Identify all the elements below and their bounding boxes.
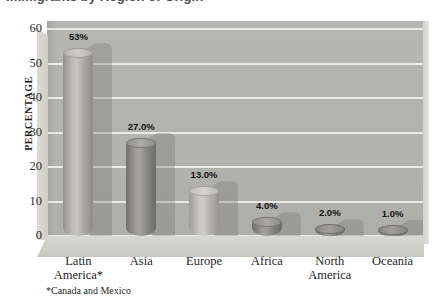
bar-data-label: 13.0%: [164, 169, 244, 180]
x-axis-label-line: America*: [33, 268, 123, 282]
x-axis-label-line: Oceania: [348, 254, 432, 268]
bar-body: [63, 53, 93, 236]
x-axis-label-line: America: [285, 268, 375, 282]
bar[interactable]: [252, 222, 282, 236]
gridline: [47, 28, 424, 30]
bar[interactable]: [63, 53, 93, 236]
y-axis-tick-label: 0: [14, 229, 42, 242]
chart-container: Immigrants by Region of Origin 53%27.0%1…: [0, 0, 432, 302]
y-axis-tick-label: 10: [14, 195, 42, 208]
bar[interactable]: [126, 143, 156, 236]
bar[interactable]: [189, 191, 219, 236]
bar[interactable]: [315, 229, 345, 236]
bar-top-ellipse: [378, 225, 408, 235]
plot-area: 53%27.0%13.0%4.0%2.0%1.0%: [47, 21, 424, 236]
bar-top-ellipse: [315, 224, 345, 234]
bar-data-label: 53%: [47, 31, 118, 42]
y-axis-tick-label: 50: [14, 57, 42, 70]
y-axis-tick-label: 40: [14, 91, 42, 104]
chart-footnote: *Canada and Mexico: [46, 285, 131, 296]
y-axis-tick-label: 30: [14, 126, 42, 139]
y-axis-tick-label: 60: [14, 22, 42, 35]
bar-data-label: 27.0%: [101, 121, 181, 132]
bar-body: [189, 191, 219, 236]
bar-body: [126, 143, 156, 236]
bar[interactable]: [378, 230, 408, 236]
bar-data-label: 1.0%: [353, 208, 424, 219]
x-axis-category-label: Oceania: [348, 254, 432, 268]
chart-right-wall: [423, 21, 429, 244]
bar-top-ellipse: [126, 138, 156, 148]
plot-left-wall-shade: [47, 21, 57, 236]
y-axis-tick-label: 20: [14, 160, 42, 173]
